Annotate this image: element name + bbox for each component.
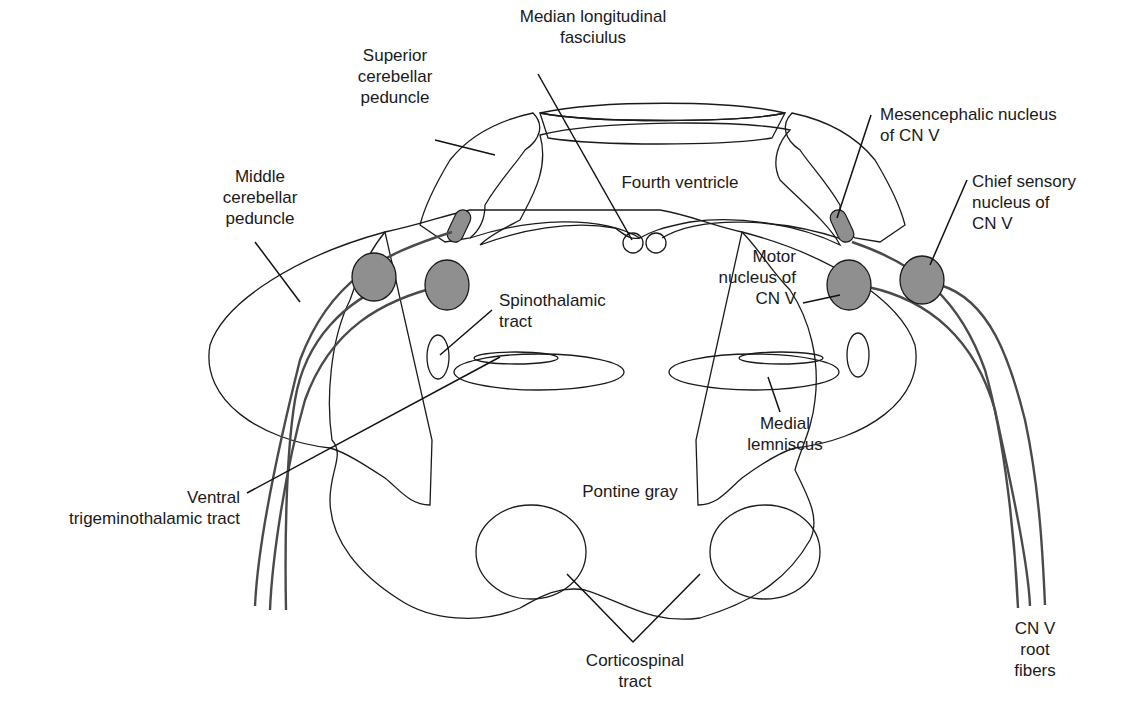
pons-cross-section-diagram: Median longitudinal fasciulus Superior c… (0, 0, 1128, 710)
leader-superior-cerebellar-peduncle (435, 140, 495, 155)
label-fourth-ventricle: Fourth ventricle (600, 172, 760, 193)
label-mesencephalic-nucleus: Mesencephalic nucleus of CN V (880, 104, 1120, 146)
label-median-longitudinal-fasciculus: Median longitudinal fasciulus (493, 6, 693, 48)
label-middle-cerebellar-peduncle: Middle cerebellar peduncle (185, 166, 335, 229)
label-ventral-trigeminothalamic-tract: Ventral trigeminothalamic tract (0, 487, 240, 529)
medial-lemniscus-left (454, 354, 624, 390)
label-chief-sensory-nucleus: Chief sensory nucleus of CN V (972, 171, 1122, 234)
label-pontine-gray: Pontine gray (555, 481, 705, 502)
cn-v-root-fiber-right-3 (940, 285, 1045, 605)
spinothalamic-tract-right (847, 333, 869, 377)
mesencephalic-nucleus-right (828, 207, 857, 245)
motor-nucleus-left (425, 260, 469, 310)
leader-mesencephalic-nucleus (837, 115, 871, 218)
leader-chief-sensory-nucleus (930, 180, 967, 265)
label-motor-nucleus: Motor nucleus of CN V (660, 246, 796, 309)
cn-v-root-fiber-left-3b (286, 282, 395, 610)
spinothalamic-tract-left (427, 335, 449, 379)
label-superior-cerebellar-peduncle: Superior cerebellar peduncle (320, 45, 470, 108)
leader-spinothalamic-tract (440, 310, 492, 355)
corticospinal-tract-right (710, 505, 820, 599)
label-medial-lemniscus: Medial lemniscus (715, 413, 855, 455)
mlf-left (623, 233, 643, 253)
label-spinothalamic-tract: Spinothalamic tract (499, 290, 639, 332)
leader-medial-lemniscus (768, 377, 780, 412)
chief-sensory-nucleus-left (352, 253, 396, 301)
leader-middle-cerebellar-peduncle (255, 242, 300, 302)
mesencephalic-nucleus-left (445, 207, 474, 245)
label-cn-v-root-fibers: CN V root fibers (985, 618, 1085, 681)
motor-nucleus-right (827, 260, 871, 310)
corticospinal-tract-left (476, 505, 586, 599)
leader-mlf (538, 74, 632, 240)
leader-corticospinal-tract (567, 574, 700, 642)
cn-v-root-fiber-right-2 (868, 287, 1030, 606)
label-corticospinal-tract: Corticospinal tract (560, 650, 710, 692)
medial-lemniscus-right (669, 354, 839, 390)
cn-v-root-fiber-left-2 (270, 285, 445, 610)
superior-cerebellar-peduncle-left (420, 113, 540, 242)
chief-sensory-nucleus-right (900, 256, 944, 304)
